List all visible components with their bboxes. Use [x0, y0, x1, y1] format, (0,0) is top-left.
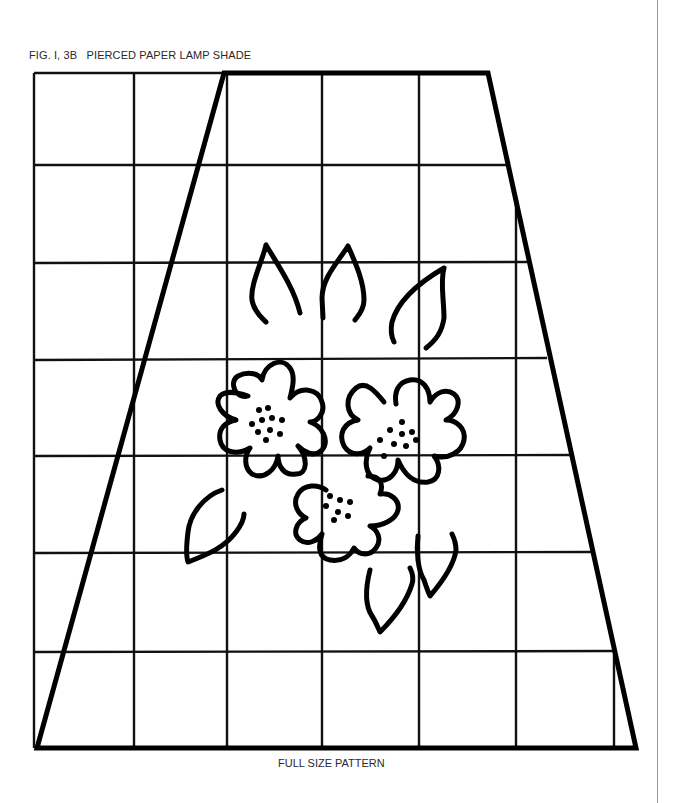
leaf-6	[417, 534, 456, 596]
leaf-2	[322, 246, 364, 320]
leaf-3	[391, 268, 444, 348]
lamp-shade-pattern	[0, 0, 676, 803]
lamp-shade-outline	[37, 73, 636, 748]
leaf-4	[187, 490, 245, 562]
page-margin-rule	[657, 0, 658, 803]
flower-2	[342, 380, 465, 483]
leaf-1	[252, 245, 300, 322]
leaf-5	[367, 568, 413, 632]
pattern-caption: FULL SIZE PATTERN	[278, 757, 385, 769]
